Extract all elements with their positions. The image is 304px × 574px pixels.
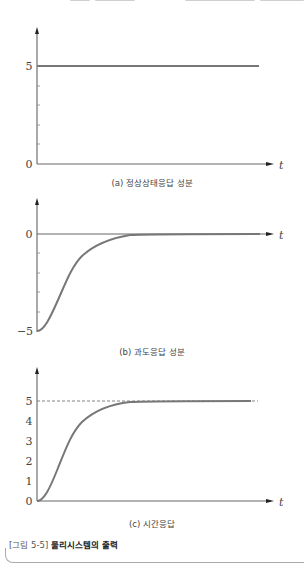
caption-a: (a) 정상상태응답 성분 (0, 176, 304, 188)
ytick-5: 5 (26, 60, 33, 73)
cut-off-text-previous-page (0, 0, 304, 6)
y-axis-arrow-icon (35, 198, 39, 205)
ytick-5: 5 (26, 395, 33, 408)
x-axis-arrow-icon (266, 499, 274, 503)
chart-transient: 0 −5 t (0, 195, 304, 340)
ytick-neg5: −5 (17, 325, 33, 338)
y-axis-arrow-icon (35, 27, 39, 34)
ytick-0: 0 (26, 495, 33, 507)
ytick-0: 0 (26, 158, 33, 170)
ytick-3: 3 (26, 435, 33, 448)
x-axis-label: t (279, 496, 284, 507)
x-axis-arrow-icon (266, 232, 274, 236)
x-axis-label: t (279, 159, 284, 170)
caption-b: (b) 과도응답 성분 (0, 345, 304, 357)
box-border (5, 548, 304, 563)
time-response-curve (37, 401, 251, 501)
caption-c: (c) 시간응답 (0, 517, 304, 529)
transient-curve (37, 234, 260, 331)
chart-steady-state: 5 0 t (0, 20, 304, 170)
x-axis-arrow-icon (266, 162, 274, 166)
ytick-1: 1 (26, 475, 33, 488)
ytick-4: 4 (26, 415, 33, 428)
chart-time-response: 5 4 3 2 1 0 t (0, 362, 304, 507)
ytick-0: 0 (26, 228, 33, 241)
ytick-2: 2 (26, 455, 33, 468)
x-axis-label: t (279, 229, 284, 242)
y-axis-arrow-icon (35, 367, 39, 374)
